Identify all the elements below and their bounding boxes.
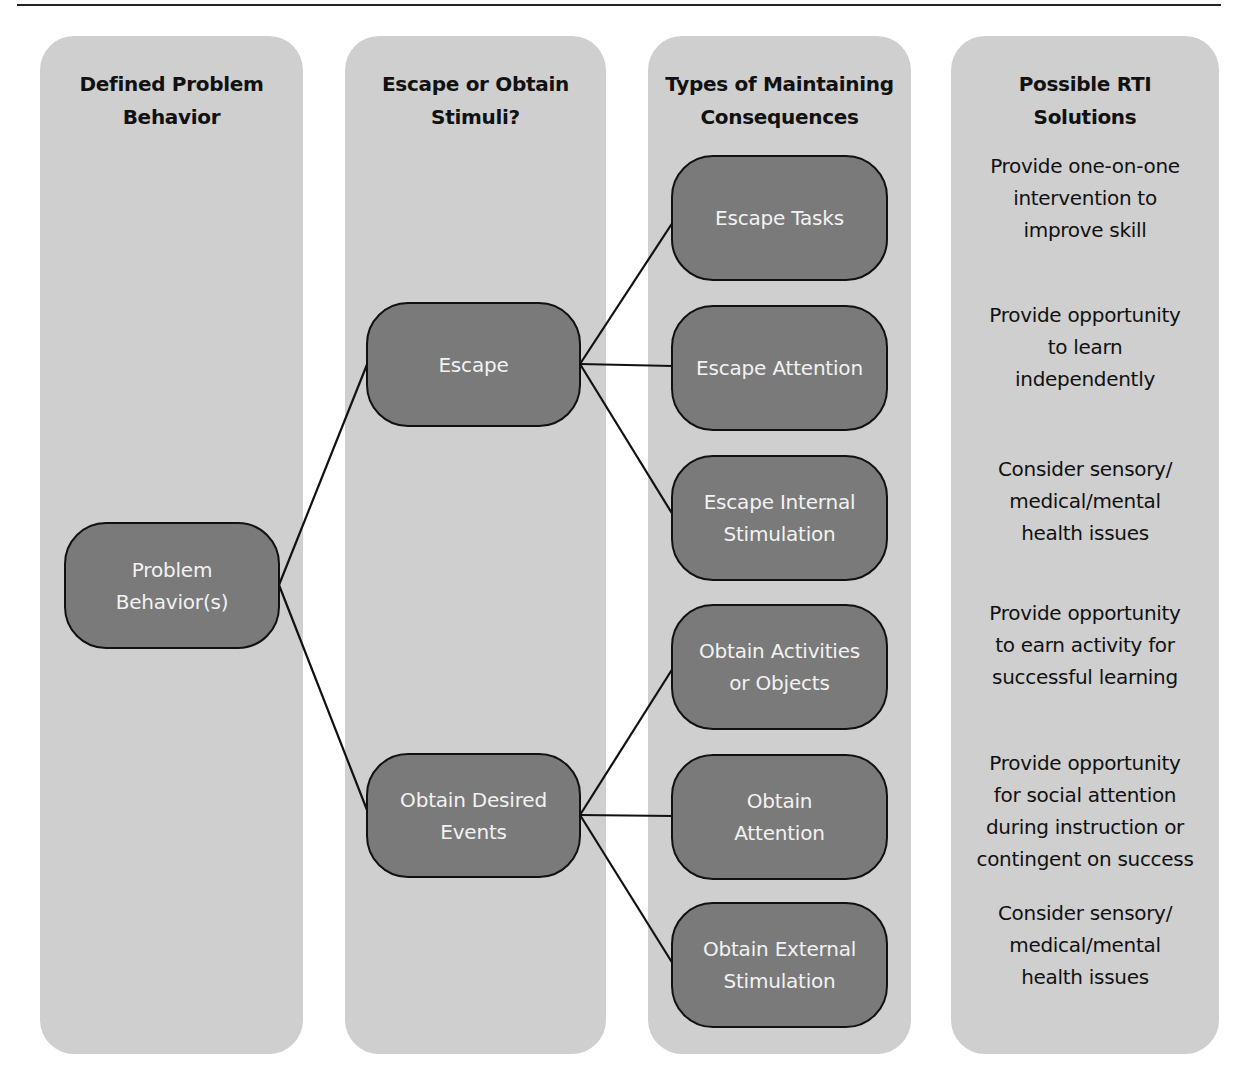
top-rule <box>17 4 1221 6</box>
node-obtain-attention: Obtain Attention <box>671 754 888 880</box>
solution-text: Provide opportunity to earn activity for… <box>951 597 1219 693</box>
node-obtain-desired-events: Obtain Desired Events <box>366 753 581 878</box>
column-title: Defined Problem Behavior <box>40 68 303 134</box>
column-title: Possible RTI Solutions <box>951 68 1219 134</box>
node-obtain-external-stimulation: Obtain External Stimulation <box>671 902 888 1028</box>
node-escape-internal-stimulation: Escape Internal Stimulation <box>671 455 888 581</box>
column-title: Types of Maintaining Consequences <box>648 68 911 134</box>
solution-text: Consider sensory/ medical/mental health … <box>951 897 1219 993</box>
node-escape-attention: Escape Attention <box>671 305 888 431</box>
node-problem-behaviors: Problem Behavior(s) <box>64 522 280 649</box>
solution-text: Provide opportunity for social attention… <box>951 747 1219 875</box>
column-escape-or-obtain: Escape or Obtain Stimuli? <box>345 36 606 1054</box>
solution-text: Consider sensory/ medical/mental health … <box>951 453 1219 549</box>
node-escape: Escape <box>366 302 581 427</box>
solution-text: Provide one-on-one intervention to impro… <box>951 150 1219 246</box>
node-escape-tasks: Escape Tasks <box>671 155 888 281</box>
node-obtain-activities-or-objects: Obtain Activities or Objects <box>671 604 888 730</box>
solution-text: Provide opportunity to learn independent… <box>951 299 1219 395</box>
column-title: Escape or Obtain Stimuli? <box>345 68 606 134</box>
